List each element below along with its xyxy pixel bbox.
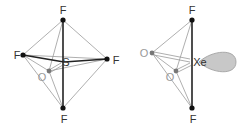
label-o-lower: O	[166, 71, 175, 83]
fluorine-atom-bottom	[189, 105, 194, 110]
sof4-molecule: F F F F S O	[14, 4, 120, 125]
fluorine-atom-bottom	[60, 105, 65, 110]
label-f-bottom: F	[190, 113, 197, 125]
label-o: O	[38, 71, 47, 83]
xeo2f2-molecule: F F O O Xe	[140, 4, 236, 125]
fluorine-atom-left	[20, 52, 25, 57]
fluorine-atom-top	[189, 17, 194, 22]
label-f-left: F	[14, 49, 21, 61]
fluorine-atom-top	[60, 17, 65, 22]
xe-o-double-bonds	[154, 52, 191, 72]
oxygen-atom-left	[150, 51, 155, 56]
oxygen-atom-lower	[174, 69, 179, 74]
label-f-bottom: F	[61, 113, 68, 125]
label-f-top: F	[60, 4, 67, 16]
label-xe-center: Xe	[193, 56, 206, 68]
label-s-center: S	[62, 56, 69, 68]
label-f-top: F	[189, 4, 196, 16]
fluorine-atom-right	[104, 56, 109, 61]
xeo2f2-outline-edges	[152, 20, 192, 108]
label-f-right: F	[113, 54, 120, 66]
oxygen-atom	[47, 69, 52, 74]
molecular-geometry-diagram: F F F F S O F F	[0, 0, 247, 125]
label-o-left: O	[140, 47, 149, 59]
